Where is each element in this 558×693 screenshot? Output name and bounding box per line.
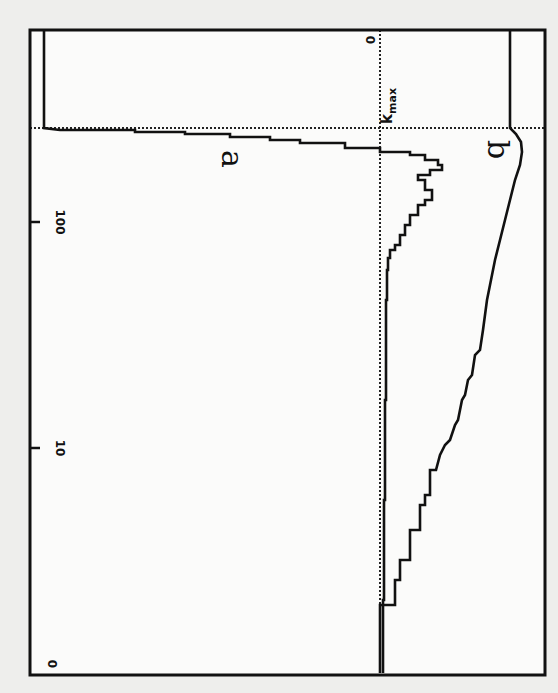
curve-b-label: b [481,140,516,159]
tick-label-0-top: 0 [363,36,377,44]
chart-figure: 100 10 0 0 k max a b [0,0,558,693]
curve-a-label: a [215,150,250,168]
tick-label-100: 100 [53,209,67,234]
tick-label-10: 10 [53,440,67,457]
kmax-subscript: max [386,88,399,114]
plot-area [30,30,545,675]
tick-label-0-bottom: 0 [45,660,59,668]
